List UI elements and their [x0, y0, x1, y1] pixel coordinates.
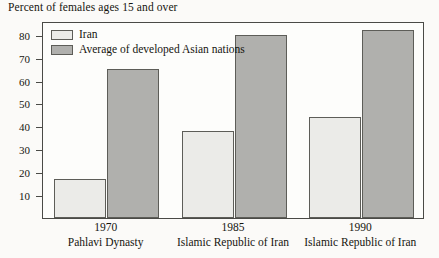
y-axis-tick-label: 80	[19, 28, 30, 44]
bar-1990-iran	[309, 117, 361, 218]
y-axis-tick-label: 30	[19, 142, 30, 158]
y-axis-tick-label: 70	[19, 51, 30, 67]
x-axis-era: Islamic Republic of Iran	[304, 235, 416, 250]
chart-legend: IranAverage of developed Asian nations	[51, 28, 245, 56]
bar-1970-iran	[54, 179, 106, 218]
legend-label: Iran	[79, 28, 98, 41]
y-axis-tick-label: 10	[19, 188, 30, 204]
chart-container: Percent of females ages 15 and over 1020…	[0, 0, 439, 258]
legend-label: Average of developed Asian nations	[79, 43, 245, 56]
x-axis-group-label: 1985Islamic Republic of Iran	[177, 220, 289, 250]
x-axis-era: Islamic Republic of Iran	[177, 235, 289, 250]
x-axis-era: Pahlavi Dynasty	[68, 235, 144, 250]
bar-1985-iran	[182, 131, 234, 218]
bar-1985-asia	[235, 35, 287, 218]
y-axis: 1020304050607080	[0, 0, 42, 219]
bar-1990-asia	[362, 30, 414, 218]
plot-frame: IranAverage of developed Asian nations	[42, 22, 424, 219]
y-axis-tick-label: 50	[19, 96, 30, 112]
bar-1970-asia	[107, 69, 159, 218]
y-axis-tick-label: 60	[19, 74, 30, 90]
legend-swatch-asia	[51, 45, 73, 55]
y-axis-tick-label: 40	[19, 119, 30, 135]
x-axis-year: 1990	[304, 220, 416, 235]
legend-swatch-iran	[51, 30, 73, 40]
y-axis-tick-label: 20	[19, 165, 30, 181]
x-axis-group-label: 1970Pahlavi Dynasty	[68, 220, 144, 250]
x-axis-year: 1970	[68, 220, 144, 235]
legend-item: Average of developed Asian nations	[51, 43, 245, 56]
x-axis-labels: 1970Pahlavi Dynasty1985Islamic Republic …	[42, 220, 424, 258]
x-axis-group-label: 1990Islamic Republic of Iran	[304, 220, 416, 250]
x-axis-year: 1985	[177, 220, 289, 235]
legend-item: Iran	[51, 28, 245, 41]
